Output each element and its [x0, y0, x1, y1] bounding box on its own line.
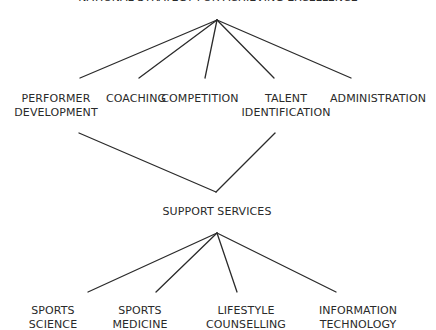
connector-competition: [205, 20, 217, 78]
connector-performer-to-support: [79, 133, 216, 192]
node-label-line1: SUPPORT SERVICES: [163, 205, 272, 219]
node-label-line2: COUNSELLING: [206, 318, 286, 330]
node-talent-identification: TALENT IDENTIFICATION: [241, 92, 330, 120]
node-label-line2: SCIENCE: [29, 318, 77, 330]
connector-information-technology: [217, 233, 336, 292]
node-label-line2: IDENTIFICATION: [241, 106, 330, 120]
connector-sports-science: [88, 233, 217, 292]
node-label-line1: LIFESTYLE: [206, 304, 286, 318]
node-label-line1: INFORMATION: [319, 304, 397, 318]
node-sports-medicine: SPORTS MEDICINE: [112, 304, 167, 330]
node-label-line2: TECHNOLOGY: [319, 318, 397, 330]
connector-administration: [217, 20, 351, 78]
node-coaching: COACHING: [106, 92, 166, 106]
connector-lines: [0, 0, 436, 330]
connector-performer-development: [80, 20, 217, 78]
node-competition: COMPETITION: [161, 92, 238, 106]
node-label-line1: ADMINISTRATION: [330, 92, 426, 106]
node-label-line2: MEDICINE: [112, 318, 167, 330]
diagram-title: NATIONAL STRATEGY FOR ACHIEVING EXCELLEN…: [78, 0, 357, 4]
connector-talent-to-support: [216, 133, 275, 192]
node-performer-development: PERFORMER DEVELOPMENT: [14, 92, 97, 120]
node-label-line1: COMPETITION: [161, 92, 238, 106]
node-sports-science: SPORTS SCIENCE: [29, 304, 77, 330]
node-label-line1: SPORTS: [29, 304, 77, 318]
node-label-line2: DEVELOPMENT: [14, 106, 97, 120]
connector-sports-medicine: [156, 233, 217, 292]
node-lifestyle-counselling: LIFESTYLE COUNSELLING: [206, 304, 286, 330]
node-label-line1: TALENT: [241, 92, 330, 106]
node-support-services: SUPPORT SERVICES: [163, 205, 272, 219]
node-administration: ADMINISTRATION: [330, 92, 426, 106]
node-label-line1: SPORTS: [112, 304, 167, 318]
connector-coaching: [139, 20, 217, 78]
node-label-line1: PERFORMER: [14, 92, 97, 106]
node-label-line1: COACHING: [106, 92, 166, 106]
node-information-technology: INFORMATION TECHNOLOGY: [319, 304, 397, 330]
connector-talent-identification: [217, 20, 274, 78]
